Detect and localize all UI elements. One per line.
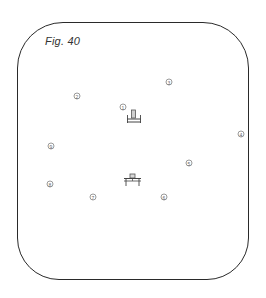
marker-8: 8 xyxy=(47,181,54,188)
marker-5: 5 xyxy=(186,160,193,167)
marker-2: 2 xyxy=(74,93,81,100)
figure-40-diagram: Fig. 40 1 2 3 4 5 6 7 8 9 xyxy=(0,0,266,298)
marker-9: 9 xyxy=(48,143,55,150)
marker-7: 7 xyxy=(90,194,97,201)
figure-title: Fig. 40 xyxy=(45,35,80,47)
marker-6: 6 xyxy=(161,194,168,201)
lower-furniture-symbol-icon xyxy=(123,173,142,188)
rounded-frame xyxy=(17,22,249,280)
marker-4: 4 xyxy=(238,131,245,138)
marker-3: 3 xyxy=(166,79,173,86)
upper-furniture-symbol-icon xyxy=(125,109,143,125)
